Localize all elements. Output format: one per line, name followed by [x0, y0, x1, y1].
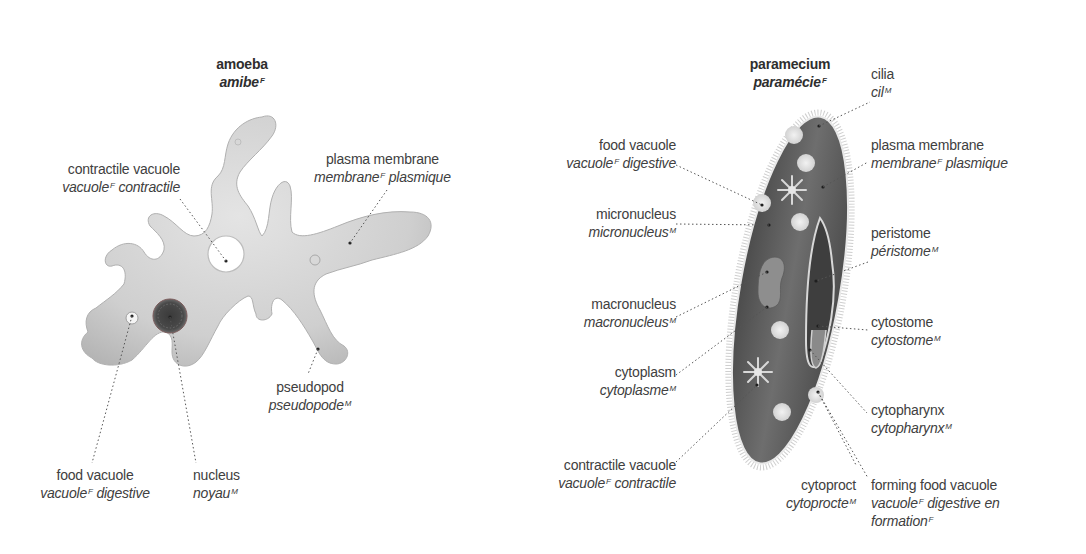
label-text: cytopharynx: [871, 420, 944, 436]
label-text: forming food vacuole: [871, 476, 1000, 494]
label-text: contractile: [115, 179, 180, 195]
label-text: paramecium: [735, 55, 845, 73]
label-text: cytostome: [871, 313, 940, 331]
gender-marker: F: [88, 487, 93, 496]
label-text: vacuole: [62, 179, 109, 195]
gender-marker: F: [110, 181, 115, 190]
gender-marker: F: [614, 157, 619, 166]
paramecium-label-forming-food-vacuole: forming food vacuole vacuoleF digestive …: [871, 476, 1000, 530]
amoeba-label-pseudopod: pseudopod pseudopodeM: [260, 378, 360, 414]
label-text: péristome: [871, 243, 931, 259]
label-text: plasma membrane: [871, 136, 1008, 154]
label-text: micronucleus: [588, 224, 668, 240]
paramecium-label-peristome: peristome péristomeM: [871, 224, 938, 260]
label-text: digestive: [93, 485, 150, 501]
label-text: vacuole: [40, 485, 87, 501]
label-text: cytoprocte: [786, 495, 849, 511]
label-text: peristome: [871, 224, 938, 242]
paramecium-label-cytopharynx: cytopharynx cytopharynxM: [871, 401, 952, 437]
label-text: vacuole: [871, 495, 918, 511]
label-text: plasmique: [942, 155, 1008, 171]
label-text: macronucleus: [540, 295, 676, 313]
gender-marker: M: [850, 497, 856, 506]
gender-marker: M: [670, 316, 676, 325]
gender-marker: F: [937, 157, 942, 166]
paramecium-label-cilia: cilia cilM: [871, 65, 894, 101]
gender-marker: M: [885, 86, 891, 95]
paramecium-label-cytoproct: cytoproct cytoprocteM: [770, 476, 856, 512]
gender-marker: F: [260, 76, 265, 85]
label-text: membrane: [314, 169, 379, 185]
label-text: nucleus: [193, 466, 240, 484]
paramecium-label-cytoplasm: cytoplasm cytoplasmeM: [540, 363, 676, 399]
label-text: amoeba: [200, 55, 284, 73]
gender-marker: F: [929, 515, 934, 524]
label-text: cil: [871, 84, 884, 100]
label-text: contractile vacuole: [40, 160, 180, 178]
paramecium-label-contractile-vacuole: contractile vacuole vacuoleF contractile: [520, 456, 676, 492]
label-text: cytostome: [871, 332, 933, 348]
label-text: pseudopode: [269, 397, 344, 413]
gender-marker: F: [822, 76, 827, 85]
paramecium-title: paramecium paramécieF: [735, 55, 845, 91]
gender-marker: F: [380, 171, 385, 180]
label-text: cytoproct: [770, 476, 856, 494]
label-text: vacuole: [558, 475, 605, 491]
amoeba-label-food-vacuole: food vacuole vacuoleF digestive: [30, 466, 160, 502]
gender-marker: M: [932, 245, 938, 254]
amoeba-title: amoeba amibeF: [200, 55, 284, 91]
gender-marker: M: [670, 384, 676, 393]
label-text: digestive en: [924, 495, 1000, 511]
label-text: noyau: [193, 485, 230, 501]
label-text: food vacuole: [30, 466, 160, 484]
amoeba-label-plasma-membrane: plasma membrane membraneF plasmique: [314, 150, 451, 186]
gender-marker: F: [606, 477, 611, 486]
label-text: formation: [871, 513, 928, 529]
label-text: vacuole: [566, 155, 613, 171]
protozoa-diagram: amoeba amibeF contractile vacuole vacuol…: [0, 0, 1086, 554]
label-text: cytoplasm: [540, 363, 676, 381]
paramecium-label-food-vacuole: food vacuole vacuoleF digestive: [540, 136, 676, 172]
gender-marker: F: [919, 497, 924, 506]
label-text: cytopharynx: [871, 401, 952, 419]
label-text: contractile vacuole: [520, 456, 676, 474]
gender-marker: M: [945, 422, 951, 431]
label-text: plasma membrane: [314, 150, 451, 168]
label-text: membrane: [871, 155, 936, 171]
label-text: cytoplasme: [600, 382, 669, 398]
label-text: pseudopod: [260, 378, 360, 396]
paramecium-label-macronucleus: macronucleus macronucleusM: [540, 295, 676, 331]
gender-marker: M: [345, 399, 351, 408]
gender-marker: M: [934, 334, 940, 343]
label-text: micronucleus: [540, 205, 676, 223]
paramecium-label-micronucleus: micronucleus micronucleusM: [540, 205, 676, 241]
amoeba-label-contractile-vacuole: contractile vacuole vacuoleF contractile: [40, 160, 180, 196]
gender-marker: M: [231, 487, 237, 496]
label-text: cilia: [871, 65, 894, 83]
label-text: macronucleus: [584, 314, 669, 330]
paramecium-label-cytostome: cytostome cytostomeM: [871, 313, 940, 349]
label-text: paramécie: [753, 74, 820, 90]
label-text: food vacuole: [540, 136, 676, 154]
label-text: plasmique: [385, 169, 451, 185]
label-text: amibe: [219, 74, 258, 90]
amoeba-label-nucleus: nucleus noyauM: [193, 466, 240, 502]
paramecium-illustration: [676, 102, 874, 478]
label-text: digestive: [619, 155, 676, 171]
gender-marker: M: [670, 226, 676, 235]
paramecium-label-plasma-membrane: plasma membrane membraneF plasmique: [871, 136, 1008, 172]
label-text: contractile: [611, 475, 676, 491]
